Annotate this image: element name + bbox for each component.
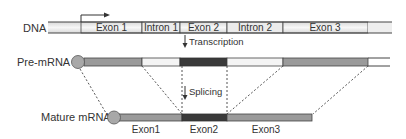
- pre-mrna-intron-1: [142, 58, 180, 66]
- mature-mrna-label: Mature mRNA: [41, 111, 111, 123]
- mature-mrna-strand: [108, 111, 313, 124]
- dna-intron-1-label: Intron 1: [144, 22, 178, 33]
- dna-flank-left: [48, 22, 81, 33]
- splicing-diagram: DNA Exon 1 Intron 1 Exon 2 Intron 2 Exon…: [0, 0, 406, 139]
- splicing-arrow-icon: [183, 86, 188, 100]
- dna-exon-2-label: Exon 2: [188, 22, 220, 33]
- pre-mrna-exon-1: [84, 58, 142, 66]
- mature-mrna-exon-2: [182, 114, 227, 121]
- transcription-label: Transcription: [189, 36, 244, 47]
- dna-exon-1-label: Exon 1: [96, 22, 128, 33]
- pre-mrna-exon-3: [283, 58, 368, 66]
- dna-intron-2-label: Intron 2: [238, 22, 272, 33]
- mature-mrna-exon-1: [119, 114, 182, 121]
- mature-exon-2-label: Exon2: [190, 124, 219, 135]
- pre-mrna-exon-2: [180, 58, 227, 66]
- dna-label: DNA: [23, 22, 47, 34]
- mature-mrna-cap-icon: [108, 111, 121, 124]
- pre-mrna-cap-icon: [72, 56, 85, 69]
- transcription-arrow-icon: [183, 35, 188, 48]
- mature-exon-3-label: Exon3: [252, 124, 281, 135]
- promoter-arrow-icon: [81, 13, 110, 23]
- mature-mrna-exon-3: [227, 114, 312, 121]
- dna-flank-right: [368, 22, 392, 33]
- splicing-label: Splicing: [189, 86, 222, 97]
- pre-mrna-strand: [72, 56, 391, 69]
- splice-guide-lines: [80, 66, 368, 114]
- pre-mrna-label: Pre-mRNA: [17, 56, 71, 68]
- dna-exon-3-label: Exon 3: [309, 22, 341, 33]
- mature-exon-1-label: Exon1: [132, 124, 161, 135]
- pre-mrna-intron-2: [227, 58, 283, 66]
